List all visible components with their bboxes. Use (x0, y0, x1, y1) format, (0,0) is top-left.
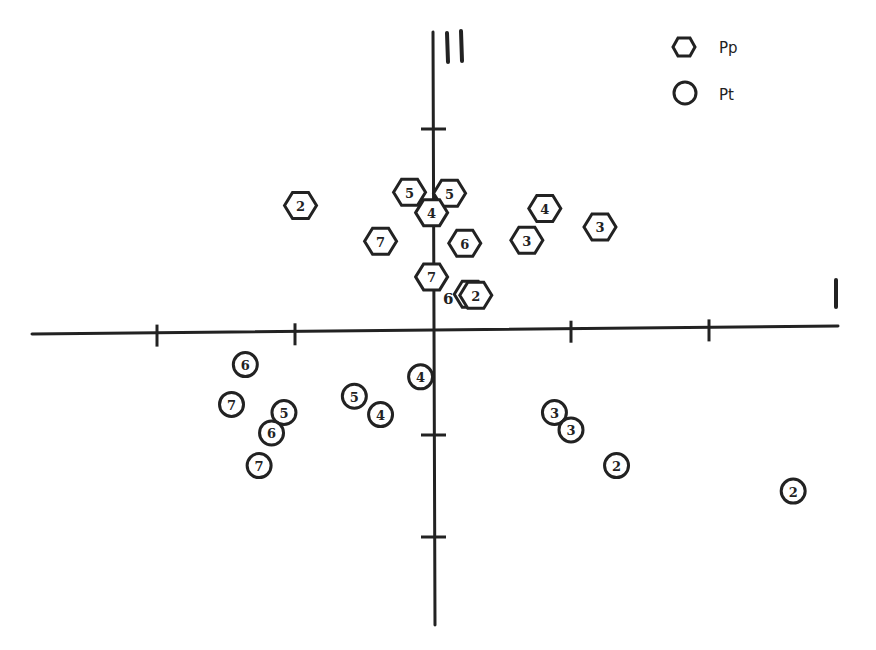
pp-point: 7 (365, 228, 397, 254)
pt-point: 3 (559, 418, 583, 442)
point-label: 2 (612, 459, 621, 474)
point-label: 7 (376, 235, 385, 250)
circle-marker-icon (674, 82, 696, 104)
pt-point: 4 (409, 365, 433, 389)
point-label: 3 (566, 423, 575, 438)
pt-point: 6 (233, 353, 257, 377)
point-label: 4 (540, 202, 549, 217)
pp-point: 4 (416, 200, 448, 226)
point-label: 2 (471, 289, 480, 304)
point-label: 3 (595, 220, 604, 235)
pt-point: 6 (260, 421, 284, 445)
pt-point: 2 (605, 454, 629, 478)
point-label: 5 (405, 186, 414, 201)
point-label: 4 (427, 206, 436, 221)
legend-label-pp: Pp (719, 39, 738, 57)
pp-point: 3 (511, 227, 543, 253)
point-label: 3 (550, 406, 559, 421)
point-label: 5 (279, 406, 288, 421)
annotations: 6 (443, 290, 453, 308)
pp-point: 5 (394, 179, 426, 205)
point-label: 5 (350, 390, 359, 405)
axis-label-III (447, 31, 462, 62)
legend-item-pt: Pt (674, 82, 734, 104)
pp-point: 3 (584, 214, 616, 240)
point-label: 3 (522, 234, 531, 249)
legend: Pp Pt (673, 38, 738, 104)
point-label: 6 (267, 426, 276, 441)
point-label: 4 (416, 370, 425, 385)
pt-point: 2 (781, 479, 805, 503)
data-points: 255443376762675675443322 (220, 179, 806, 503)
pp-point: 7 (416, 264, 448, 290)
pp-point: 6 (449, 230, 481, 256)
annotation-label: 6 (443, 290, 453, 308)
point-label: 4 (376, 408, 385, 423)
pt-point: 7 (247, 454, 271, 478)
point-label: 6 (241, 358, 250, 373)
pt-point: 5 (342, 384, 366, 408)
point-label: 7 (227, 398, 236, 413)
point-label: 2 (296, 199, 305, 214)
point-label: 2 (789, 485, 798, 500)
axes (32, 31, 838, 625)
pca-scatter-plot: 255443376762675675443322 6 Pp Pt (0, 0, 876, 650)
legend-label-pt: Pt (719, 86, 734, 104)
pt-point: 4 (369, 403, 393, 427)
pt-point: 7 (220, 392, 244, 416)
legend-item-pp: Pp (673, 38, 738, 57)
point-label: 7 (255, 459, 264, 474)
pp-point: 2 (285, 193, 317, 219)
pp-point: 4 (529, 196, 561, 222)
point-label: 7 (427, 270, 436, 285)
point-label: 5 (445, 187, 454, 202)
pp-point: 2 (460, 282, 492, 308)
hexagon-marker-icon (673, 38, 695, 56)
point-label: 6 (460, 237, 469, 252)
